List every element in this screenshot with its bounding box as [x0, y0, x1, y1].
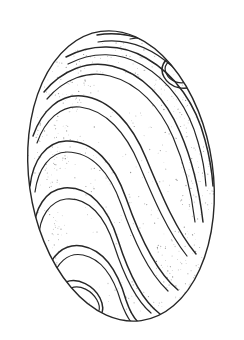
stipple-upper-right-dot [187, 136, 188, 137]
stipple-right-lower-dot [193, 277, 194, 278]
stipple-bottom-dot [159, 302, 160, 303]
stipple-right-lower-dot [167, 273, 168, 274]
stipple-left-lower-dot [48, 211, 49, 212]
stipple-right-mid-dot [193, 194, 194, 195]
stipple-right-mid-dot [181, 199, 182, 200]
stipple-upper-left-dot [78, 91, 79, 92]
stipple-upper-left-dot [65, 100, 66, 101]
stipple-center-dot [83, 140, 84, 141]
stipple-upper-right-dot [161, 94, 162, 95]
stipple-left-lower-dot [57, 234, 58, 235]
stipple-left-mid-dot [47, 179, 48, 180]
stipple-right-lower-dot [169, 273, 170, 274]
stipple-upper-right-dot [179, 128, 180, 129]
stipple-top-dot [140, 57, 141, 58]
stipple-top-dot [143, 49, 144, 50]
stipple-center-dot [134, 126, 135, 127]
stipple-left-lower-dot [64, 225, 65, 226]
stipple-left-mid-dot [45, 170, 46, 171]
stipple-center-dot [141, 115, 142, 116]
stipple-left-mid-dot [65, 168, 66, 169]
stipple-right-lower-dot [172, 276, 173, 277]
stipple-right-mid-dot [202, 195, 203, 196]
stipple-center-dot [98, 142, 99, 143]
stipple-left-mid-dot [38, 156, 39, 157]
stipple-center-dot [93, 188, 94, 189]
stipple-top-dot [92, 62, 93, 63]
stipple-center-dot [105, 162, 106, 163]
stipple-right-lower-dot [175, 298, 176, 299]
stipple-upper-right-dot [181, 114, 182, 115]
stipple-upper-left-dot [75, 50, 76, 51]
stipple-center-dot [132, 122, 133, 123]
stipple-bottom-dot [153, 302, 154, 303]
stipple-left-mid-dot [55, 164, 56, 165]
stipple-left-mid-dot [59, 183, 60, 184]
stipple-right-lower-dot [187, 237, 188, 238]
stipple-center-dot [149, 127, 150, 128]
stipple-bottom-dot [108, 301, 109, 302]
stipple-center-dot [85, 207, 86, 208]
stipple-bottom-dot [148, 296, 149, 297]
stipple-right-lower-dot [162, 255, 163, 256]
stipple-left-mid-dot [37, 130, 38, 131]
stipple-left-mid-dot [42, 136, 43, 137]
stipple-right-mid-dot [191, 147, 192, 148]
stipple-upper-left-dot [56, 61, 57, 62]
stipple-upper-left-dot [90, 86, 91, 87]
stipple-center-dot [99, 170, 100, 171]
stipple-right-lower-dot [158, 252, 159, 253]
stipple-right-mid-dot [208, 160, 209, 161]
stipple-upper-right-dot [167, 100, 168, 101]
stipple-right-mid-dot [191, 181, 192, 182]
stipple-center-dot [151, 210, 152, 211]
stipple-upper-left-dot [84, 79, 85, 80]
stipple-right-mid-dot [198, 167, 199, 168]
stipple-top-dot [135, 73, 136, 74]
stipple-right-lower-dot [157, 248, 158, 249]
stipple-right-mid-dot [189, 199, 190, 200]
stipple-upper-right-dot [155, 80, 156, 81]
stipple-center-dot [164, 162, 165, 163]
stipple-center-dot [129, 113, 130, 114]
stipple-right-mid-dot [207, 204, 208, 205]
stipple-right-mid-dot [195, 174, 196, 175]
stipple-left-mid-dot [53, 163, 54, 164]
stipple-upper-left-dot [79, 61, 80, 62]
stipple-right-lower-dot [175, 285, 176, 286]
stipple-right-mid-dot [181, 167, 182, 168]
stipple-left-mid-dot [46, 168, 47, 169]
stipple-upper-left-dot [81, 102, 82, 103]
stipple-left-mid-dot [60, 144, 61, 145]
stipple-center-dot [138, 196, 139, 197]
stipple-center-dot [169, 185, 170, 186]
stipple-upper-left-dot [59, 62, 60, 63]
stipple-upper-left-dot [77, 50, 78, 51]
stipple-upper-right-dot [184, 118, 185, 119]
stipple-upper-right-dot [178, 109, 179, 110]
stipple-left-mid-dot [70, 139, 71, 140]
stipple-right-mid-dot [198, 172, 199, 173]
stipple-upper-left-dot [93, 85, 94, 86]
stipple-upper-left-dot [76, 97, 77, 98]
stipple-left-mid-dot [51, 174, 52, 175]
stipple-right-lower-dot [198, 264, 199, 265]
stipple-left-mid-dot [70, 146, 71, 147]
stipple-bottom-dot [126, 297, 127, 298]
stipple-bottom-dot [109, 295, 110, 296]
stipple-right-lower-dot [165, 248, 166, 249]
shell-illustration [0, 0, 244, 340]
stipple-center-dot [140, 113, 141, 114]
stipple-upper-left-dot [77, 102, 78, 103]
stipple-left-lower-dot [56, 221, 57, 222]
stipple-left-mid-dot [63, 126, 64, 127]
stipple-left-lower-dot [60, 229, 61, 230]
stipple-right-lower-dot [184, 246, 185, 247]
stipple-top-dot [133, 63, 134, 64]
stipple-upper-right-dot [186, 128, 187, 129]
stipple-left-mid-dot [34, 158, 35, 159]
stipple-left-mid-dot [52, 182, 53, 183]
stipple-left-mid-dot [63, 137, 64, 138]
stipple-right-lower-dot [190, 283, 191, 284]
stipple-upper-right-dot [164, 90, 165, 91]
